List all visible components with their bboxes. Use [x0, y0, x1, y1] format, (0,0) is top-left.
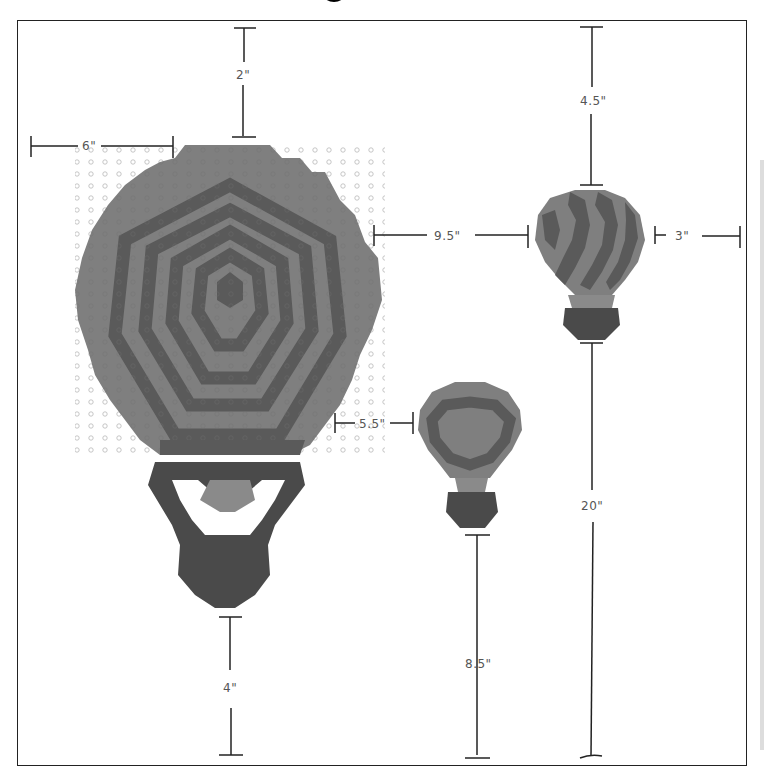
label-small-to-right: 3": [675, 229, 689, 243]
label-large-to-bottom: 4": [223, 681, 237, 695]
label-top-to-small: 4.5": [580, 94, 607, 108]
label-large-to-medium: 5.5": [359, 417, 386, 431]
label-top-to-large: 2": [236, 68, 250, 82]
label-small-to-bottom: 20": [581, 499, 603, 513]
label-large-to-small: 9.5": [434, 229, 461, 243]
quilt-diagram: 2" 6" 4.5" 9.5" 3" 5.5" 20" 8.5" 4": [0, 0, 765, 779]
label-left-to-large: 6": [82, 139, 96, 153]
label-medium-to-bottom: 8.5": [465, 657, 492, 671]
medium-balloon: [418, 382, 522, 528]
small-balloon: [535, 190, 645, 340]
large-balloon: [75, 145, 385, 608]
